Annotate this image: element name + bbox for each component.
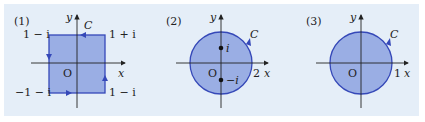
curve-label: C bbox=[84, 19, 93, 32]
figure-label: (2) bbox=[166, 15, 182, 28]
y-label: y bbox=[65, 11, 73, 24]
x-tick-label: 2 bbox=[253, 67, 260, 80]
figure-1-square: (1) y C 1 − i 1 + i −1 − i 1 − i O x bbox=[14, 11, 136, 108]
point-i bbox=[219, 46, 224, 51]
figure-label: (3) bbox=[306, 15, 322, 28]
x-label: x bbox=[404, 67, 411, 80]
corner-bottom-right: 1 − i bbox=[109, 86, 136, 99]
point-i-label: i bbox=[226, 42, 230, 55]
curve-label: C bbox=[390, 28, 399, 41]
point-minus-i bbox=[219, 78, 224, 83]
figure-label: (1) bbox=[14, 15, 30, 28]
corner-top-left: 1 − i bbox=[23, 28, 50, 41]
y-label: y bbox=[349, 11, 357, 24]
corner-bottom-left: −1 − i bbox=[15, 86, 51, 99]
x-label: x bbox=[118, 67, 125, 80]
origin-label: O bbox=[348, 67, 357, 80]
contour-diagrams: (1) y C 1 − i 1 + i −1 − i 1 − i O x (2)… bbox=[0, 0, 425, 122]
figure-3-circle: (3) y C O 1 x bbox=[306, 11, 411, 108]
y-label: y bbox=[209, 11, 217, 24]
x-label: x bbox=[264, 67, 271, 80]
figure-2-circle: (2) y C i −i O 2 x bbox=[166, 11, 271, 108]
point-minus-i-label: −i bbox=[226, 74, 239, 87]
corner-top-right: 1 + i bbox=[109, 28, 136, 41]
origin-label: O bbox=[63, 67, 72, 80]
x-tick-label: 1 bbox=[394, 67, 401, 80]
curve-label: C bbox=[250, 28, 259, 41]
origin-label: O bbox=[208, 67, 217, 80]
